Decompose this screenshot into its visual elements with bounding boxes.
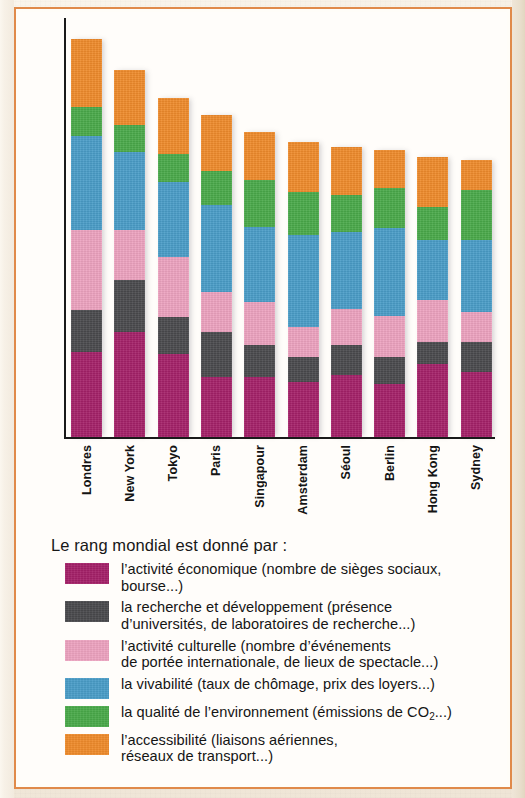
x-tick-label: Berlin [383,445,397,481]
bar-segment [244,180,275,227]
figure-frame-inner: LondresNew YorkTokyoParisSingapourAmster… [19,12,507,784]
co2-subscript: 2 [429,711,435,722]
bar-séoul [331,147,362,437]
bar-segment [201,115,232,171]
bar-segment [71,39,102,107]
bar-segment [374,228,405,316]
plot-area [65,18,498,437]
bar-segment [374,384,405,437]
bar-segment [461,160,492,190]
bar-segment [288,235,319,327]
bar-segment [288,142,319,192]
bar-segment [158,257,189,317]
bar-segment [374,188,405,228]
bar-segment [71,352,102,437]
bar-segment [114,70,145,125]
legend-item-economic: l’activité économique (nombre de sièges … [43,561,493,594]
x-tick-label: Sydney [469,445,483,490]
bar-segment [374,316,405,358]
legend-label-line2: d’universités, de laboratoires de recher… [121,616,415,633]
legend-label-livability: la vivabilité (taux de chômage, prix des… [121,676,435,693]
stacked-bar-chart: LondresNew YorkTokyoParisSingapourAmster… [43,18,498,443]
bar-singapour [244,132,275,437]
legend-item-culture: l’activité culturelle (nombre d’événemen… [43,638,493,671]
bar-segment [417,300,448,342]
bar-segment [417,240,448,300]
bar-segment [244,377,275,437]
bar-segment [331,375,362,437]
x-tick-label: Séoul [339,445,353,480]
legend-swatch-livability [65,678,109,699]
swatch-texture [65,734,109,755]
swatch-texture [65,678,109,699]
legend-label-research: la recherche et développement (présenced… [121,599,415,632]
legend-label-environment: la qualité de l’environnement (émissions… [121,704,452,721]
legend-label-economic: l’activité économique (nombre de sièges … [121,561,441,594]
swatch-texture [65,563,109,584]
legend: Le rang mondial est donné par : l’activi… [43,536,493,770]
x-tick-label: Hong Kong [426,445,440,513]
bar-segment [158,154,189,182]
page-background: LondresNew YorkTokyoParisSingapourAmster… [0,0,525,798]
bar-paris [201,115,232,437]
bar-segment [461,240,492,312]
legend-label-line2: de portée internationale, de lieux de sp… [121,654,438,671]
legend-swatch-environment [65,706,109,727]
bar-segment [244,302,275,345]
swatch-texture [65,706,109,727]
bar-segment [158,317,189,354]
bar-segment [158,98,189,154]
bar-segment [114,332,145,437]
swatch-texture [65,601,109,622]
bar-hong-kong [417,157,448,437]
figure-frame: LondresNew YorkTokyoParisSingapourAmster… [14,7,512,789]
bar-segment [114,152,145,230]
bar-segment [374,150,405,188]
bar-segment [417,207,448,240]
bar-segment [417,157,448,207]
bar-segment [331,195,362,232]
bar-segment [244,132,275,180]
bar-segment [244,227,275,302]
x-tick-label: Paris [209,445,223,476]
bar-segment [201,205,232,292]
legend-label-culture: l’activité culturelle (nombre d’événemen… [121,638,438,671]
bar-segment [331,309,362,345]
bar-segment [71,310,102,352]
bar-segment [461,372,492,437]
legend-swatch-research [65,601,109,622]
bar-segment [374,357,405,384]
legend-swatch-accessibility [65,734,109,755]
bar-segment [244,345,275,377]
bar-segment [417,342,448,364]
legend-title: Le rang mondial est donné par : [51,536,493,555]
bar-segment [114,230,145,280]
x-tick-label: New York [123,445,137,502]
bar-sydney [461,160,492,437]
bar-londres [71,39,102,437]
bar-segment [71,107,102,136]
bar-new-york [114,70,145,437]
legend-rows: l’activité économique (nombre de sièges … [43,561,493,765]
page-left-edge [0,0,14,798]
bar-segment [288,357,319,382]
legend-label-line2: réseaux de transport...) [121,748,338,765]
page-right-edge [512,0,525,798]
legend-item-accessibility: l’accessibilité (liaisons aériennes,rése… [43,732,493,765]
bar-segment [158,182,189,257]
x-tick-label: Londres [80,445,94,495]
bar-tokyo [158,98,189,437]
bar-amsterdam [288,142,319,437]
x-tick-label: Tokyo [166,445,180,481]
bar-segment [114,125,145,152]
bar-segment [331,232,362,309]
bar-segment [461,312,492,342]
x-tick-label: Amsterdam [296,445,310,515]
bar-segment [417,364,448,437]
bar-segment [71,136,102,230]
legend-swatch-economic [65,563,109,584]
bar-segment [331,147,362,195]
bar-segment [114,280,145,332]
bar-segment [288,327,319,357]
bar-segment [331,345,362,375]
